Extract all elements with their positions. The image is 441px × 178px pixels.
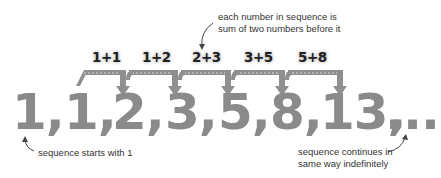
sequence-number-3: 2, [112, 84, 164, 140]
sequence-ellipsis: ... [385, 84, 439, 140]
sum-label-3: 2+3 [192, 49, 221, 65]
sum-label-5: 5+8 [298, 49, 327, 65]
top-annotation: each number in sequence is sum of two nu… [218, 11, 341, 35]
sequence-number-1: 1, [12, 84, 64, 140]
sequence-number-2: 1, [64, 84, 116, 140]
bottom-right-annotation-line-2: same way indefinitely [298, 158, 393, 170]
sequence-number-4: 3, [165, 84, 217, 140]
sequence-number-5: 5, [218, 84, 270, 140]
bottom-left-annotation: sequence starts with 1 [38, 147, 133, 159]
sum-label-4: 3+5 [244, 49, 273, 65]
top-annotation-line-1: each number in sequence is [218, 11, 341, 23]
top-annotation-arrow [202, 23, 213, 47]
sequence-number-6: 8, [270, 84, 322, 140]
sum-label-2: 1+2 [142, 49, 171, 65]
bottom-right-annotation-line-1: sequence continues in [298, 146, 393, 158]
bottom-right-annotation: sequence continues in same way indefinit… [298, 146, 393, 170]
top-annotation-line-2: sum of two numbers before it [218, 23, 341, 35]
sum-label-1: 1+1 [92, 49, 121, 65]
